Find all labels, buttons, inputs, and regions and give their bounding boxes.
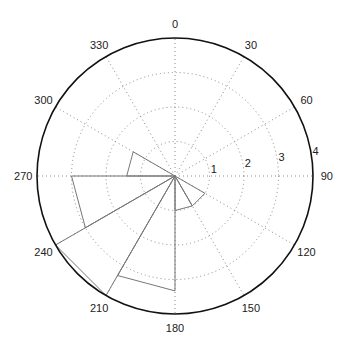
angle-label-60: 60 — [300, 94, 312, 106]
radius-label-3: 3 — [279, 151, 285, 163]
rose-petal-180-210 — [118, 176, 175, 291]
grid-spoke-60 — [175, 107, 295, 176]
angle-label-210: 210 — [90, 302, 108, 314]
rose-petal-270-300 — [127, 152, 175, 176]
angle-label-150: 150 — [242, 302, 260, 314]
radius-label-1: 1 — [211, 163, 217, 175]
radius-label-4: 4 — [313, 145, 319, 157]
angle-label-0: 0 — [172, 18, 178, 30]
grid-spoke-30 — [175, 56, 244, 176]
angle-label-120: 120 — [297, 246, 315, 258]
angle-label-240: 240 — [34, 246, 52, 258]
angle-label-180: 180 — [166, 322, 184, 334]
angle-label-330: 330 — [90, 39, 108, 51]
angle-label-90: 90 — [321, 170, 333, 182]
angle-label-30: 30 — [245, 39, 257, 51]
angle-label-270: 270 — [14, 170, 32, 182]
rose-chart: 03060901201501802102402703003301234 — [0, 0, 345, 350]
radius-label-2: 2 — [245, 157, 251, 169]
angle-label-300: 300 — [34, 94, 52, 106]
grid-spoke-330 — [106, 56, 175, 176]
